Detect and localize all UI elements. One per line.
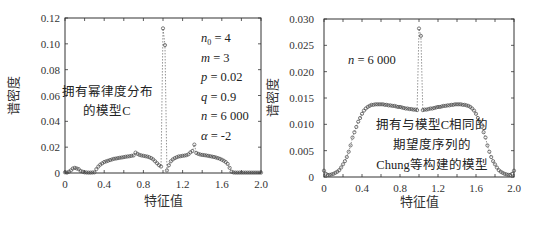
chart-annotation: 期望度序列的 xyxy=(393,137,471,152)
x-tick-label: 0 xyxy=(62,178,68,190)
y-axis-label: 谱密度 xyxy=(6,76,21,115)
y-tick-label: 0.025 xyxy=(289,39,314,51)
x-tick-label: 1.2 xyxy=(431,182,445,194)
y-tick-label: 0.005 xyxy=(289,145,314,157)
data-point xyxy=(490,155,493,158)
data-point xyxy=(148,156,151,159)
data-point xyxy=(108,158,111,161)
x-tick-label: 0.8 xyxy=(393,182,407,194)
data-point xyxy=(355,125,358,128)
data-point xyxy=(175,156,178,159)
x-tick-label: 2.0 xyxy=(254,178,268,190)
parameter-label: p = 0.02 xyxy=(200,70,242,84)
data-point xyxy=(353,131,356,134)
right-chart: 00.40.81.21.62.000.0050.0100.0150.0200.0… xyxy=(265,13,521,209)
plot-frame xyxy=(324,19,514,177)
y-tick-label: 0.02 xyxy=(41,141,60,153)
y-tick-label: 0.10 xyxy=(41,38,61,50)
chart-annotation: 拥有幂律度分布 xyxy=(62,84,153,99)
chart-annotation: Chung等构建的模型 xyxy=(376,157,487,172)
data-point xyxy=(73,166,76,169)
data-point xyxy=(107,159,110,162)
x-tick-label: 0.4 xyxy=(355,182,369,194)
data-point xyxy=(360,112,363,115)
parameter-label: n = 6 000 xyxy=(201,109,249,123)
x-tick-label: 2.0 xyxy=(507,182,521,194)
parameter-label: m = 3 xyxy=(201,51,230,65)
chart-annotation: 拥有与模型C相同的 xyxy=(376,117,488,132)
x-tick-label: 1.6 xyxy=(469,182,483,194)
parameter-label: q = 0.9 xyxy=(201,90,236,104)
y-tick-label: 0 xyxy=(309,171,315,183)
x-axis-label: 特征值 xyxy=(400,194,439,209)
chart-annotation: 的模型C xyxy=(83,103,130,118)
left-chart: 00.40.81.21.62.000.020.040.060.080.100.1… xyxy=(6,12,268,208)
y-tick-label: 0.12 xyxy=(41,12,60,24)
y-tick-label: 0.030 xyxy=(289,13,314,25)
y-tick-label: 0 xyxy=(55,167,61,179)
parameter-label: n0 = 4 xyxy=(201,31,232,47)
data-point xyxy=(218,157,221,160)
x-tick-label: 0 xyxy=(321,182,327,194)
y-tick-label: 0.04 xyxy=(41,115,61,127)
parameter-label: α = -2 xyxy=(201,129,231,143)
x-axis-label: 特征值 xyxy=(144,193,183,208)
x-tick-label: 0.4 xyxy=(97,178,111,190)
y-tick-label: 0.06 xyxy=(41,90,61,102)
data-point xyxy=(187,153,190,156)
series-line xyxy=(324,28,514,174)
y-tick-label: 0.010 xyxy=(289,118,314,130)
y-tick-label: 0.015 xyxy=(289,92,314,104)
data-point xyxy=(167,164,170,167)
parameter-label: n = 6 000 xyxy=(348,53,396,67)
data-point xyxy=(146,155,149,158)
data-point xyxy=(357,120,360,123)
figure: 00.40.81.21.62.000.020.040.060.080.100.1… xyxy=(0,0,536,226)
y-tick-label: 0.08 xyxy=(41,64,61,76)
data-point xyxy=(156,162,159,165)
y-axis-label: 谱密度 xyxy=(265,78,280,117)
x-tick-label: 1.6 xyxy=(215,178,229,190)
data-point xyxy=(343,160,346,163)
y-tick-label: 0.020 xyxy=(289,66,314,78)
x-tick-label: 1.2 xyxy=(176,178,190,190)
x-tick-label: 0.8 xyxy=(137,178,151,190)
